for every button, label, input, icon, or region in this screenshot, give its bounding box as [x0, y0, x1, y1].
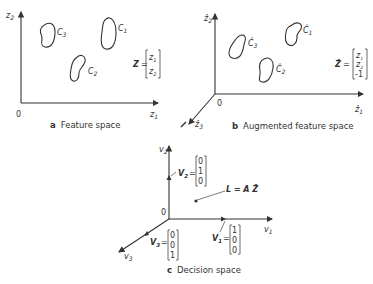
feature-vector-z: Z = z1 z2	[132, 50, 160, 78]
caption-b: bAugmented feature space	[232, 121, 354, 131]
vector-z-entry-1: z1	[148, 53, 156, 63]
vector-z-entry-2: z2	[148, 67, 156, 77]
v1-unit-marker	[221, 217, 226, 222]
svg-text:0: 0	[198, 157, 203, 166]
svg-text:=: =	[223, 234, 230, 243]
point-label-l-eq-az: L = A Ẑ	[226, 184, 258, 194]
vector-z-hat-entry-3: -1	[355, 70, 363, 79]
basis-vector-v1: V1 = 1 0 0	[212, 221, 240, 255]
cluster-c3-shape	[40, 23, 55, 47]
panel-feature-space: 0 z2 z1 C3 C1 C2 Z = z1 z2 aFeature spac…	[5, 11, 160, 130]
z2-hat-axis-label: ẑ2	[203, 14, 212, 24]
vector-z-hat-name: Ẑ	[334, 59, 341, 69]
cluster-c2-hat-shape	[259, 58, 273, 82]
cluster-c2-label: C2	[88, 67, 98, 77]
caption-a: aFeature space	[50, 120, 121, 130]
z1-axis-label: z1	[149, 110, 158, 120]
svg-text:V1: V1	[212, 234, 222, 244]
svg-text:1: 1	[198, 167, 203, 176]
vector-z-name: Z	[132, 60, 139, 69]
svg-text:=: =	[189, 169, 196, 178]
svg-text:0: 0	[170, 241, 175, 250]
v3-axis	[119, 219, 169, 252]
origin-label-c: 0	[161, 208, 166, 217]
origin-label-b: 0	[217, 99, 222, 108]
vector-z-hat-equals: =	[343, 60, 350, 69]
v3-axis-label: v3	[124, 252, 133, 262]
basis-vector-v3: V3 = 0 0 1	[150, 230, 178, 260]
basis-vector-v2: V2 = 0 1 0	[171, 156, 206, 186]
svg-text:V2: V2	[178, 169, 188, 179]
figure-canvas: 0 z2 z1 C3 C1 C2 Z = z1 z2 aFeature spac…	[0, 0, 373, 284]
point-leader-line	[197, 191, 225, 200]
origin-label: 0	[16, 110, 21, 119]
caption-c: cDecision space	[167, 265, 241, 275]
cluster-c3-label: C3	[57, 28, 67, 38]
panel-augmented-feature-space: 0 ẑ2 ẑ1 ẑ3 Ĉ3 Ĉ1 Ĉ2 Ẑ = z1 z2 -1 bAugmen…	[189, 14, 367, 131]
v2-axis-label: v2	[159, 145, 168, 155]
v3-unit-marker	[144, 231, 149, 236]
svg-text:0: 0	[232, 246, 237, 255]
cluster-c2-hat-label: Ĉ2	[276, 63, 286, 75]
svg-text:0: 0	[198, 177, 203, 186]
vector-z-hat-entry-2: z2	[355, 60, 363, 70]
svg-text:=: =	[161, 238, 168, 247]
cluster-c1-hat-label: Ĉ1	[303, 24, 312, 36]
cluster-c1-label: C1	[118, 24, 127, 34]
svg-text:0: 0	[170, 231, 175, 240]
svg-text:1: 1	[232, 226, 237, 235]
svg-text:1: 1	[170, 251, 175, 260]
svg-text:0: 0	[232, 236, 237, 245]
stray-mark	[181, 122, 186, 127]
z3-hat-axis-label: ẑ3	[194, 120, 203, 130]
z1-hat-axis-label: ẑ1	[354, 105, 363, 115]
vector-z-equals: =	[141, 60, 148, 69]
z3-hat-axis	[189, 94, 215, 124]
augmented-vector-z-hat: Ẑ = z1 z2 -1	[334, 49, 367, 79]
cluster-c3-hat-shape	[229, 35, 245, 58]
cluster-c3-hat-label: Ĉ3	[248, 37, 258, 49]
v2-unit-marker	[167, 175, 172, 180]
cluster-c1-shape	[101, 18, 116, 49]
z2-axis-label: z2	[5, 11, 14, 21]
panel-decision-space: 0 v2 v1 v3 V2 = 0 1 0 L = A Ẑ V1 =	[119, 145, 273, 275]
cluster-c2-shape	[70, 55, 85, 81]
v1-axis-label: v1	[264, 225, 273, 235]
cluster-c1-hat-shape	[285, 23, 301, 46]
svg-text:V3: V3	[150, 238, 160, 248]
